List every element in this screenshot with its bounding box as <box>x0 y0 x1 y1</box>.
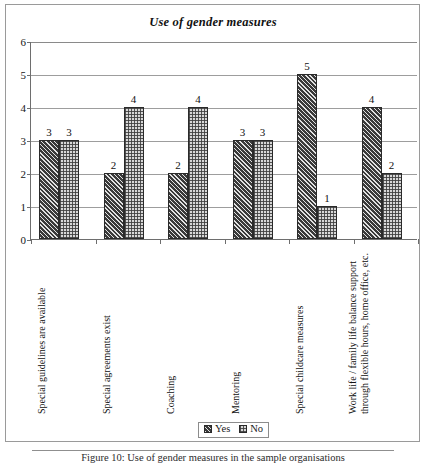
category-axis-labels: Special guidelines are availableSpecial … <box>30 246 417 416</box>
y-axis-tick-label: 0 <box>21 235 27 246</box>
bar-group: 24 <box>96 42 161 239</box>
bar-group: 42 <box>354 42 419 239</box>
bar-value-label: 4 <box>369 94 375 105</box>
bar-no: 3 <box>253 140 273 239</box>
category-label-line: Special agreements exist <box>101 315 113 414</box>
y-axis-tick-label: 5 <box>21 70 27 81</box>
bar-value-label: 3 <box>240 127 246 138</box>
legend-item-yes: Yes <box>204 424 230 435</box>
x-axis-tick-mark <box>354 239 355 244</box>
plot-inner: 0123456332424335142 <box>31 42 417 239</box>
bar-value-label: 3 <box>46 127 52 138</box>
x-axis-tick-mark <box>96 239 97 244</box>
y-axis-tick-label: 2 <box>21 169 27 180</box>
bar-no: 1 <box>317 206 337 239</box>
category-label-text: Coaching <box>165 376 177 414</box>
x-axis-tick-mark <box>418 239 419 244</box>
y-axis-tick-label: 1 <box>21 202 27 213</box>
plot-area: 0123456332424335142 <box>30 42 417 240</box>
category-label-line: Special childcare measures <box>294 306 306 414</box>
legend-label-no: No <box>250 424 263 435</box>
bar-value-label: 2 <box>175 160 181 171</box>
bar-group: 51 <box>289 42 354 239</box>
y-axis-tick-label: 3 <box>21 136 27 147</box>
x-axis-tick-mark <box>225 239 226 244</box>
bar-no: 3 <box>59 140 79 239</box>
category-label-line: Coaching <box>165 376 177 414</box>
y-axis-tick-label: 6 <box>21 37 27 48</box>
category-label-text: Mentoring <box>230 372 242 414</box>
category-label-line: through flexible hours, home office, etc… <box>359 253 371 414</box>
caption-divider <box>32 450 394 451</box>
bar-value-label: 2 <box>389 160 395 171</box>
x-axis-tick-mark <box>289 239 290 244</box>
bar-group: 24 <box>160 42 225 239</box>
category-label-text: Special agreements exist <box>101 315 113 414</box>
x-axis-tick-mark <box>31 239 32 244</box>
bar-yes: 2 <box>168 173 188 239</box>
bar-no: 4 <box>188 107 208 239</box>
category-label-line: Work life / family life balance support <box>347 253 359 414</box>
legend-swatch-yes-icon <box>204 425 212 433</box>
category-label-text: Special childcare measures <box>294 306 306 414</box>
category-label-text: Work life / family life balance supportt… <box>347 253 371 414</box>
bar-value-label: 5 <box>304 61 310 72</box>
bar-group: 33 <box>225 42 290 239</box>
bar-value-label: 3 <box>260 127 266 138</box>
bar-value-label: 2 <box>111 160 117 171</box>
bar-yes: 3 <box>233 140 253 239</box>
bar-no: 2 <box>382 173 402 239</box>
chart-legend: Yes No <box>198 422 269 438</box>
bar-value-label: 4 <box>195 94 201 105</box>
category-label-line: Mentoring <box>230 372 242 414</box>
bar-yes: 4 <box>362 107 382 239</box>
category-label-text: Special guidelines are available <box>36 288 48 414</box>
legend-swatch-no-icon <box>239 425 247 433</box>
chart-title: Use of gender measures <box>0 15 426 30</box>
bar-value-label: 1 <box>324 193 330 204</box>
bar-no: 4 <box>124 107 144 239</box>
legend-item-no: No <box>239 424 263 435</box>
bar-value-label: 3 <box>66 127 72 138</box>
bar-value-label: 4 <box>131 94 137 105</box>
bar-yes: 3 <box>39 140 59 239</box>
bar-yes: 2 <box>104 173 124 239</box>
y-axis-tick-label: 4 <box>21 103 27 114</box>
x-axis-tick-mark <box>160 239 161 244</box>
bar-yes: 5 <box>297 74 317 239</box>
category-label-line: Special guidelines are available <box>36 288 48 414</box>
legend-label-yes: Yes <box>215 424 230 435</box>
figure-caption: Figure 10: Use of gender measures in the… <box>0 452 426 463</box>
bar-group: 33 <box>31 42 96 239</box>
